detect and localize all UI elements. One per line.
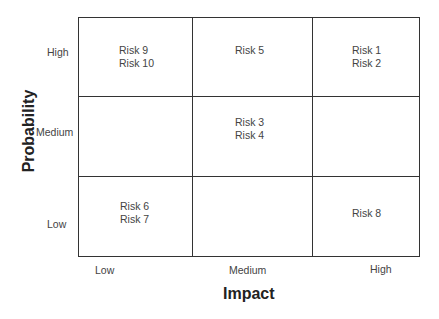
risk-label: Risk 10	[119, 57, 154, 70]
risk-label: Risk 4	[235, 129, 264, 142]
grid-divider-horizontal	[79, 176, 419, 177]
risk-label: Risk 9	[119, 44, 154, 57]
risk-label: Risk 1	[352, 44, 381, 57]
grid-divider-vertical	[192, 18, 193, 256]
x-axis-title: Impact	[223, 285, 275, 303]
risk-label: Risk 7	[120, 213, 149, 226]
risk-matrix-grid: Risk 9 Risk 10 Risk 5 Risk 1 Risk 2 Risk…	[78, 17, 420, 257]
x-tick-high: High	[370, 263, 392, 275]
y-axis-title: Probability	[20, 81, 38, 181]
risk-label: Risk 2	[352, 57, 381, 70]
matrix-cell-low-low: Risk 6 Risk 7	[120, 200, 149, 226]
risk-label: Risk 6	[120, 200, 149, 213]
matrix-cell-low-high: Risk 8	[352, 207, 381, 220]
grid-divider-vertical	[312, 18, 313, 256]
matrix-cell-high-medium: Risk 5	[235, 44, 264, 57]
risk-label: Risk 5	[235, 44, 264, 57]
matrix-cell-medium-medium: Risk 3 Risk 4	[235, 116, 264, 142]
matrix-cell-high-high: Risk 1 Risk 2	[352, 44, 381, 70]
x-tick-low: Low	[95, 264, 114, 276]
y-tick-low: Low	[47, 218, 66, 230]
risk-label: Risk 3	[235, 116, 264, 129]
y-tick-high: High	[47, 46, 69, 58]
x-tick-medium: Medium	[229, 264, 266, 276]
risk-label: Risk 8	[352, 207, 381, 220]
matrix-cell-high-low: Risk 9 Risk 10	[119, 44, 154, 70]
y-tick-medium: Medium	[36, 126, 73, 138]
grid-divider-horizontal	[79, 96, 419, 97]
